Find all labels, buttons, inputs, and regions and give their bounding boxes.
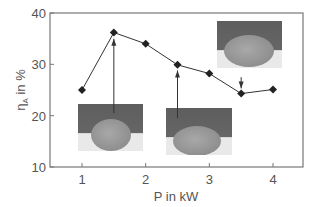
y-axis-label-rest: in % bbox=[13, 69, 28, 98]
x-tick-label: 4 bbox=[269, 172, 276, 187]
x-axis-label: P in kW bbox=[154, 189, 199, 204]
x-tick-label: 2 bbox=[142, 172, 149, 187]
y-tick-label: 10 bbox=[32, 160, 46, 175]
micrograph-insets bbox=[78, 21, 282, 184]
diamond-marker-icon bbox=[142, 40, 150, 48]
inset-right-micrograph bbox=[217, 21, 282, 97]
y-tick-label: 20 bbox=[32, 109, 46, 124]
x-tick-label: 1 bbox=[78, 172, 85, 187]
diamond-marker-icon bbox=[78, 86, 86, 94]
diamond-marker-icon bbox=[205, 70, 213, 78]
diamond-marker-icon bbox=[269, 85, 277, 93]
diamond-marker-icon bbox=[237, 90, 245, 98]
diamond-marker-icon bbox=[110, 29, 118, 37]
y-tick-label: 30 bbox=[32, 57, 46, 72]
diamond-marker-icon bbox=[174, 61, 182, 69]
line-chart: 123410203040 P in kW ηA in % bbox=[0, 0, 319, 207]
arrow-down-icon bbox=[239, 77, 244, 88]
inset-middle-micrograph bbox=[166, 108, 232, 184]
y-axis-label: ηA in % bbox=[13, 69, 30, 111]
y-tick-label: 40 bbox=[32, 6, 46, 21]
y-axis-label-main: η bbox=[13, 104, 28, 111]
inset-left-micrograph bbox=[78, 104, 143, 180]
arrow-up-icon bbox=[111, 39, 116, 113]
x-tick-label: 3 bbox=[206, 172, 213, 187]
